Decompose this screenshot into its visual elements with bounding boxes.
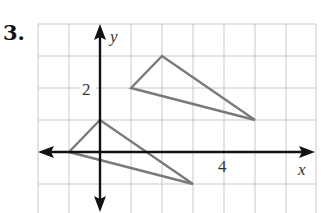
x-tick-label: 4 — [218, 157, 227, 176]
grid-lines — [38, 24, 316, 213]
y-axis-label: y — [108, 27, 118, 46]
y-tick-label: 2 — [82, 80, 91, 99]
coordinate-graph: 2 4 y x — [0, 0, 328, 213]
x-axis — [38, 146, 315, 158]
x-axis-label: x — [297, 160, 306, 179]
